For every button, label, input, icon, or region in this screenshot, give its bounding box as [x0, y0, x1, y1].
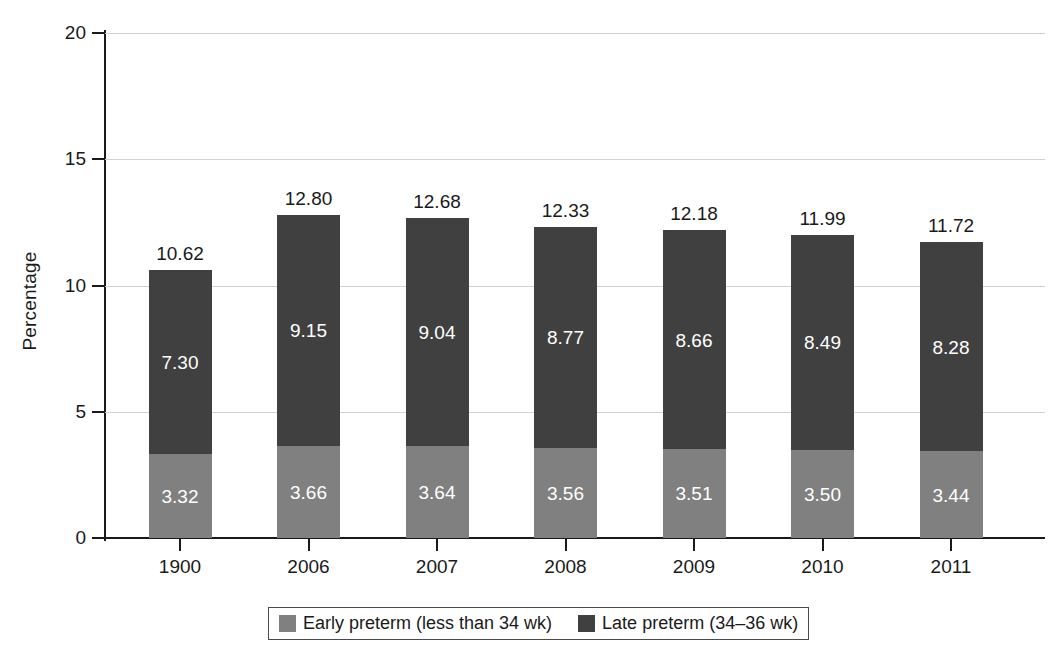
legend-label-late-preterm: Late preterm (34–36 wk) — [602, 613, 798, 634]
bar-segment-early-preterm[interactable]: 3.32 — [149, 454, 212, 538]
legend-swatch-late-preterm-icon — [578, 615, 595, 632]
x-tick-label: 2010 — [763, 556, 883, 578]
x-tick-mark — [308, 539, 310, 551]
bar-segment-early-preterm[interactable]: 3.44 — [920, 451, 983, 538]
bar-segment-early-preterm[interactable]: 3.66 — [277, 446, 340, 538]
bar-stack[interactable]: 7.303.32 — [149, 270, 212, 538]
x-tick-mark — [822, 539, 824, 551]
chart-legend: Early preterm (less than 34 wk) Late pre… — [268, 607, 809, 640]
y-tick-mark — [92, 285, 105, 287]
bar-total-label: 12.18 — [624, 204, 764, 223]
y-tick-mark — [92, 537, 105, 539]
y-tick-mark — [92, 411, 105, 413]
stacked-bar-chart: Percentage 20151050 7.303.3210.629.153.6… — [0, 0, 1059, 665]
x-tick-mark — [565, 539, 567, 551]
bar-value-label-early-preterm: 3.32 — [149, 487, 212, 506]
bar-segment-late-preterm[interactable]: 8.49 — [791, 235, 854, 449]
bar-stack[interactable]: 8.663.51 — [663, 230, 726, 538]
y-tick-label: 20 — [26, 22, 86, 44]
bar-segment-early-preterm[interactable]: 3.64 — [406, 446, 469, 538]
bar-value-label-late-preterm: 8.28 — [920, 338, 983, 357]
legend-item-late-preterm[interactable]: Late preterm (34–36 wk) — [578, 613, 798, 634]
bar-stack[interactable]: 8.773.56 — [534, 227, 597, 538]
x-tick-mark — [179, 539, 181, 551]
y-tick-mark — [92, 158, 105, 160]
bar-segment-early-preterm[interactable]: 3.50 — [791, 450, 854, 538]
y-tick-label: 15 — [26, 148, 86, 170]
x-tick-mark — [436, 539, 438, 551]
bar-total-label: 12.33 — [496, 201, 636, 220]
bar-value-label-early-preterm: 3.64 — [406, 483, 469, 502]
bar-total-label: 11.72 — [881, 216, 1021, 235]
bar-value-label-late-preterm: 8.49 — [791, 333, 854, 352]
bar-segment-late-preterm[interactable]: 9.04 — [406, 218, 469, 446]
x-tick-label: 2008 — [506, 556, 626, 578]
x-tick-label: 1900 — [120, 556, 240, 578]
bar-segment-early-preterm[interactable]: 3.56 — [534, 448, 597, 538]
bar-segment-early-preterm[interactable]: 3.51 — [663, 449, 726, 538]
bar-value-label-late-preterm: 8.66 — [663, 331, 726, 350]
x-tick-label: 2011 — [891, 556, 1011, 578]
bar-stack[interactable]: 8.493.50 — [791, 235, 854, 538]
legend-label-early-preterm: Early preterm (less than 34 wk) — [303, 613, 552, 634]
bar-value-label-early-preterm: 3.50 — [791, 485, 854, 504]
bar-total-label: 11.99 — [753, 209, 893, 228]
legend-item-early-preterm[interactable]: Early preterm (less than 34 wk) — [279, 613, 552, 634]
y-axis-title: Percentage — [19, 201, 41, 401]
bar-value-label-late-preterm: 9.04 — [406, 323, 469, 342]
bar-stack[interactable]: 8.283.44 — [920, 242, 983, 538]
bar-value-label-early-preterm: 3.51 — [663, 484, 726, 503]
bar-value-label-early-preterm: 3.44 — [920, 486, 983, 505]
y-tick-label: 5 — [26, 401, 86, 423]
bar-value-label-late-preterm: 7.30 — [149, 353, 212, 372]
x-tick-label: 2007 — [377, 556, 497, 578]
x-tick-mark — [693, 539, 695, 551]
bar-stack[interactable]: 9.043.64 — [406, 218, 469, 538]
gridline — [105, 159, 1045, 160]
bar-segment-late-preterm[interactable]: 8.66 — [663, 230, 726, 449]
bar-stack[interactable]: 9.153.66 — [277, 215, 340, 538]
bar-total-label: 12.68 — [367, 192, 507, 211]
bar-segment-late-preterm[interactable]: 7.30 — [149, 270, 212, 454]
x-tick-label: 2006 — [249, 556, 369, 578]
bar-segment-late-preterm[interactable]: 8.77 — [534, 227, 597, 448]
y-tick-label: 0 — [26, 527, 86, 549]
y-tick-mark — [92, 32, 105, 34]
bar-value-label-early-preterm: 3.66 — [277, 483, 340, 502]
y-tick-label: 10 — [26, 275, 86, 297]
bar-segment-late-preterm[interactable]: 9.15 — [277, 215, 340, 446]
bar-value-label-late-preterm: 8.77 — [534, 328, 597, 347]
gridline — [105, 33, 1045, 34]
bar-total-label: 12.80 — [239, 189, 379, 208]
bar-value-label-early-preterm: 3.56 — [534, 484, 597, 503]
x-tick-mark — [950, 539, 952, 551]
legend-swatch-early-preterm-icon — [279, 615, 296, 632]
bar-total-label: 10.62 — [110, 244, 250, 263]
bar-value-label-late-preterm: 9.15 — [277, 321, 340, 340]
x-tick-label: 2009 — [634, 556, 754, 578]
bar-segment-late-preterm[interactable]: 8.28 — [920, 242, 983, 451]
